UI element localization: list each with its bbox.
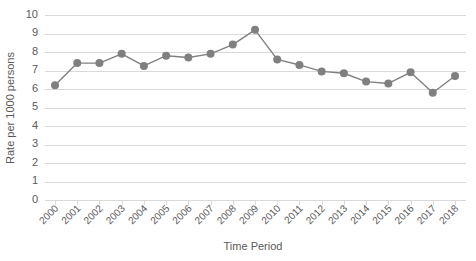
y-gridlines [45, 16, 466, 183]
y-axis-tick-labels: 012345678910 [26, 8, 38, 205]
data-point-marker [51, 81, 59, 89]
y-tick-label: 6 [32, 82, 38, 94]
data-point-marker [162, 52, 170, 60]
data-point-marker [229, 41, 237, 49]
data-point-marker [140, 62, 148, 70]
x-tick-label: 2004 [126, 202, 150, 226]
x-axis-tick-marks [56, 201, 456, 205]
x-tick-label: 2012 [304, 202, 328, 226]
data-point-marker [407, 68, 415, 76]
data-point-marker [273, 55, 281, 63]
x-tick-label: 2001 [59, 202, 83, 226]
data-point-marker [207, 50, 215, 58]
data-point-marker [451, 72, 459, 80]
data-point-marker [318, 67, 326, 75]
data-point-marker [95, 59, 103, 67]
data-point-marker [295, 61, 303, 69]
series-line-rate [55, 30, 455, 93]
y-tick-label: 0 [32, 193, 38, 205]
x-axis-title: Time Period [224, 240, 283, 252]
y-tick-label: 3 [32, 137, 38, 149]
x-tick-label: 2016 [392, 202, 416, 226]
y-tick-label: 9 [32, 26, 38, 38]
x-tick-label: 2014 [348, 202, 372, 226]
line-chart: 012345678910 200020012002200320042005200… [0, 0, 476, 261]
x-tick-label: 2010 [259, 202, 283, 226]
y-tick-label: 1 [32, 174, 38, 186]
series-markers [51, 26, 459, 97]
y-tick-label: 10 [26, 8, 38, 20]
data-point-marker [429, 89, 437, 97]
x-tick-label: 2000 [37, 202, 61, 226]
x-tick-label: 2009 [237, 202, 261, 226]
x-tick-label: 2007 [192, 202, 216, 226]
x-tick-label: 2011 [282, 202, 305, 225]
x-tick-label: 2008 [215, 202, 239, 226]
data-point-marker [184, 54, 192, 62]
x-tick-label: 2006 [170, 202, 194, 226]
data-point-marker [118, 50, 126, 58]
x-tick-label: 2018 [437, 202, 461, 226]
y-tick-label: 2 [32, 156, 38, 168]
y-tick-label: 7 [32, 63, 38, 75]
x-tick-label: 2005 [148, 202, 172, 226]
x-axis-tick-labels: 2000200120022003200420052006200720082009… [37, 202, 461, 226]
data-point-marker [362, 78, 370, 86]
data-point-marker [73, 59, 81, 67]
x-tick-label: 2015 [370, 202, 394, 226]
x-tick-label: 2013 [326, 202, 350, 226]
x-tick-label: 2002 [81, 202, 105, 226]
data-point-marker [340, 69, 348, 77]
data-point-marker [384, 79, 392, 87]
chart-canvas: 012345678910 200020012002200320042005200… [0, 0, 476, 261]
y-tick-label: 4 [32, 119, 38, 131]
y-tick-label: 8 [32, 45, 38, 57]
data-point-marker [251, 26, 259, 34]
x-tick-label: 2017 [415, 202, 439, 226]
y-tick-label: 5 [32, 100, 38, 112]
x-tick-label: 2003 [104, 202, 128, 226]
y-axis-title: Rate per 1000 persons [4, 52, 16, 164]
